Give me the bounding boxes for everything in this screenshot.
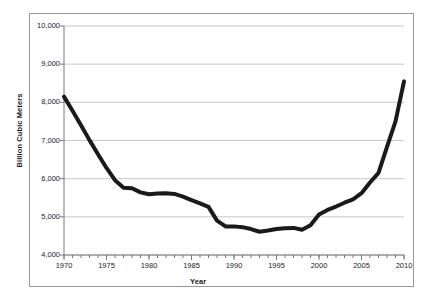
x-axis-tick-label: 1985: [174, 261, 210, 270]
y-axis-tick-label: 4,000: [24, 250, 60, 259]
line-chart-plot: [0, 0, 427, 305]
chart-figure: Billion Cubic Meters Year 4,0005,0006,00…: [0, 0, 427, 305]
y-axis-tick-label: 9,000: [24, 59, 60, 68]
y-axis-tick-label: 7,000: [24, 136, 60, 145]
x-axis-title: Year: [190, 277, 206, 286]
x-axis-tick-label: 1990: [216, 261, 252, 270]
y-axis-tick-label: 5,000: [24, 212, 60, 221]
x-axis-tick-label: 2005: [344, 261, 380, 270]
x-axis-tick-label: 1980: [131, 261, 167, 270]
x-axis-tick-label: 1975: [89, 261, 125, 270]
y-axis-ticks: [60, 26, 64, 255]
y-axis-title: Billion Cubic Meters: [15, 76, 24, 186]
y-axis-tick-label: 6,000: [24, 174, 60, 183]
x-axis-tick-label: 1995: [259, 261, 295, 270]
y-axis-tick-label: 10,000: [24, 21, 60, 30]
y-axis-tick-label: 8,000: [24, 97, 60, 106]
data-series-line: [64, 81, 404, 231]
x-axis-tick-label: 2000: [301, 261, 337, 270]
x-axis-tick-label: 2010: [386, 261, 422, 270]
gridlines-group: [64, 26, 404, 255]
x-axis-tick-label: 1970: [46, 261, 82, 270]
